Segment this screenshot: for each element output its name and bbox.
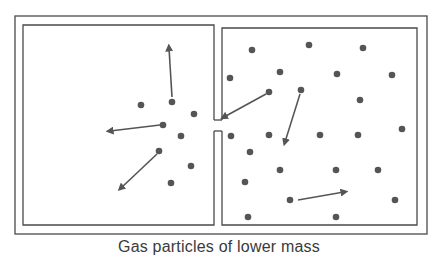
gas-particle — [168, 180, 175, 187]
gas-particle — [389, 72, 396, 79]
gas-particle — [249, 47, 256, 54]
velocity-arrow-icon — [169, 48, 172, 97]
gas-particle — [245, 214, 252, 221]
velocity-arrow-icon — [121, 154, 157, 188]
gas-particle — [188, 163, 195, 170]
gas-particle — [334, 71, 341, 78]
gas-particle — [277, 69, 284, 76]
gas-particle — [298, 87, 305, 94]
gas-particle — [277, 167, 284, 174]
gas-particle — [138, 102, 145, 109]
gas-particle — [355, 132, 362, 139]
velocity-arrow-icon — [285, 94, 300, 142]
gas-particle — [333, 167, 340, 174]
gas-particle — [228, 133, 235, 140]
gas-particle — [287, 197, 294, 204]
gas-particle — [266, 132, 273, 139]
gas-particle — [317, 132, 324, 139]
velocity-arrows — [110, 48, 344, 200]
gas-particle — [266, 89, 273, 96]
gas-particle — [247, 149, 254, 156]
left-chamber-wall — [23, 25, 214, 225]
gas-particle — [375, 167, 382, 174]
gas-particles — [138, 42, 406, 221]
velocity-arrow-icon — [110, 125, 160, 131]
gas-particle — [178, 133, 185, 140]
gas-particle — [306, 42, 313, 49]
gas-particle — [242, 179, 249, 186]
velocity-arrow-icon — [298, 192, 344, 200]
gas-particle — [227, 75, 234, 82]
gas-particle — [160, 122, 167, 129]
gas-particle — [191, 111, 198, 118]
gas-particle — [357, 97, 364, 104]
diagram-caption: Gas particles of lower mass — [0, 238, 438, 256]
gas-particle — [399, 126, 406, 133]
effusion-diagram — [0, 0, 438, 240]
gas-particle — [333, 214, 340, 221]
velocity-arrow-icon — [224, 94, 266, 117]
gas-particle — [392, 197, 399, 204]
gas-particle — [360, 45, 367, 52]
gas-particle — [169, 99, 176, 106]
gas-particle — [156, 148, 163, 155]
